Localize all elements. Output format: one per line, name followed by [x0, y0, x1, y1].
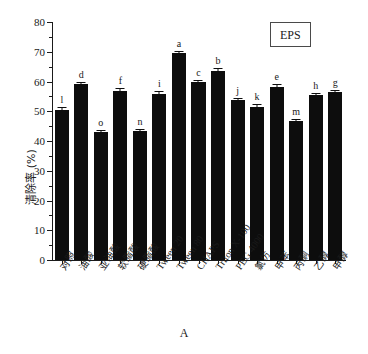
y-tick-minor	[49, 67, 52, 68]
bar-rect: h	[309, 95, 323, 260]
bar-item: k	[250, 22, 264, 260]
error-bar-cap	[194, 80, 203, 81]
bar-item: n	[133, 22, 147, 260]
y-tick-major	[47, 171, 52, 172]
bar-rect: d	[74, 84, 88, 260]
y-tick-major	[47, 52, 52, 53]
bar-item: i	[152, 22, 166, 260]
y-tick-label: 70	[34, 46, 45, 57]
legend-box: EPS	[270, 22, 311, 47]
y-tick-minor	[49, 215, 52, 216]
bar-rect: i	[152, 94, 166, 260]
y-tick-major	[47, 201, 52, 202]
bar-item: m	[289, 22, 303, 260]
y-tick-label: 20	[34, 195, 45, 206]
y-tick-major	[47, 141, 52, 142]
bar-item: g	[328, 22, 342, 260]
bar-rect: l	[55, 110, 69, 260]
bar-item: h	[309, 22, 323, 260]
bar-rect: g	[328, 92, 342, 260]
bar-rect: n	[133, 131, 147, 260]
y-tick-major	[47, 22, 52, 23]
error-bar-cap	[116, 88, 125, 89]
y-tick-minor	[49, 126, 52, 127]
error-bar-cap	[214, 68, 223, 69]
significance-letter: k	[255, 92, 260, 102]
bar-rect: c	[191, 82, 205, 261]
error-bar-cap	[57, 107, 66, 108]
significance-letter: o	[98, 118, 103, 128]
significance-letter: g	[333, 78, 338, 88]
error-bar-cap	[174, 51, 183, 52]
error-bar-cap	[331, 90, 340, 91]
y-tick-minor	[49, 37, 52, 38]
significance-letter: h	[313, 81, 318, 91]
bar-item: o	[94, 22, 108, 260]
y-tick-major	[47, 260, 52, 261]
legend-label: EPS	[280, 28, 301, 42]
bar-item: d	[74, 22, 88, 260]
y-tick-major	[47, 230, 52, 231]
bar-item: e	[270, 22, 284, 260]
y-tick-minor	[49, 245, 52, 246]
bar-item: f	[113, 22, 127, 260]
bar-item: c	[191, 22, 205, 260]
bar-rect: m	[289, 121, 303, 260]
bar-item: a	[172, 22, 186, 260]
error-bar-cap	[155, 91, 164, 92]
bar-rect: b	[211, 71, 225, 260]
significance-letter: l	[60, 95, 63, 105]
significance-letter: d	[79, 70, 84, 80]
significance-letter: f	[119, 76, 122, 86]
panel-label: A	[0, 326, 368, 341]
y-tick-major	[47, 111, 52, 112]
error-bar-cap	[135, 129, 144, 130]
significance-letter: j	[236, 86, 239, 96]
bar-item: l	[55, 22, 69, 260]
significance-letter: e	[274, 72, 278, 82]
bar-rect: o	[94, 132, 108, 260]
plot-area: 01020304050607080 ldofniacbjkemhg	[52, 22, 345, 260]
significance-letter: i	[158, 79, 161, 89]
y-tick-major	[47, 82, 52, 83]
error-bar-cap	[253, 104, 262, 105]
error-bar-cap	[96, 130, 105, 131]
significance-letter: c	[196, 68, 200, 78]
error-bar-cap	[292, 119, 301, 120]
error-bar-cap	[311, 93, 320, 94]
significance-letter: a	[177, 39, 181, 49]
y-tick-label: 60	[34, 76, 45, 87]
y-tick-label: 30	[34, 165, 45, 176]
error-bar-cap	[233, 98, 242, 99]
y-tick-label: 80	[34, 17, 45, 28]
y-tick-minor	[49, 186, 52, 187]
significance-letter: n	[137, 117, 142, 127]
y-tick-minor	[49, 156, 52, 157]
y-tick-label: 0	[40, 255, 46, 266]
y-tick-label: 10	[34, 225, 45, 236]
error-bar-cap	[77, 82, 86, 83]
figure-chart-a: 清除率 (%) 01020304050607080 ldofniacbjkemh…	[0, 0, 368, 354]
significance-letter: b	[216, 56, 221, 66]
y-tick-minor	[49, 96, 52, 97]
bar-rect: e	[270, 87, 284, 260]
bar-rect: a	[172, 53, 186, 260]
significance-letter: m	[292, 107, 300, 117]
error-bar-cap	[272, 84, 281, 85]
bar-rect: f	[113, 91, 127, 260]
bar-item: b	[211, 22, 225, 260]
y-tick-label: 50	[34, 106, 45, 117]
y-tick-label: 40	[34, 136, 45, 147]
